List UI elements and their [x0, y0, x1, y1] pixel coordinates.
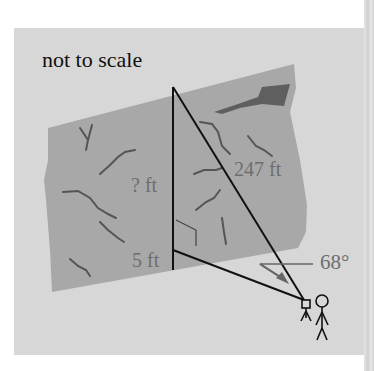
angle-label: 68° — [320, 250, 349, 275]
instrument-height-label: 5 ft — [132, 249, 159, 272]
surveying-instrument-icon — [301, 300, 311, 321]
not-to-scale-caption: not to scale — [42, 47, 142, 73]
hypotenuse-label: 247 ft — [234, 158, 281, 181]
stick-figure-icon — [316, 295, 328, 340]
unknown-height-label: ? ft — [131, 174, 157, 197]
